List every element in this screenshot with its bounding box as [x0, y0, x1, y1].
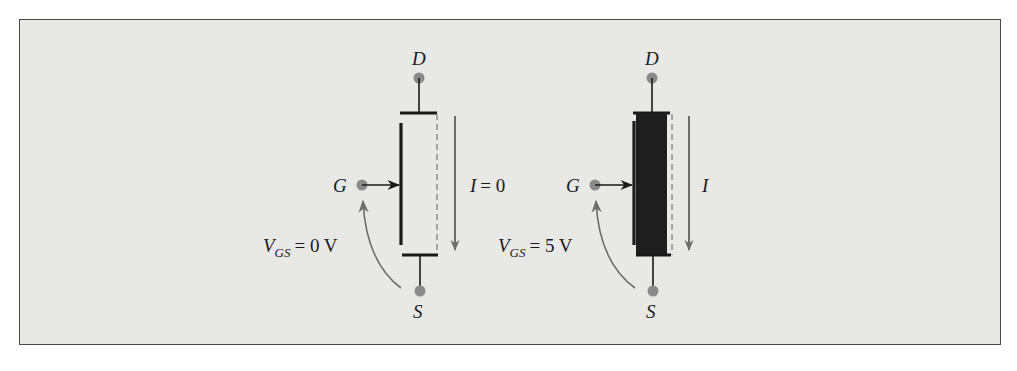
left-vgs-label: VGS= 0 V	[263, 235, 338, 260]
right-gate-label: G	[566, 175, 580, 196]
mosfet-diagram: D S G I= 0 VGS= 0 V D S G	[0, 0, 1017, 371]
right-vgs-curved-arrow	[596, 201, 635, 288]
right-transistor-on: D S G I VGS= 5 V	[498, 48, 710, 322]
left-current-label: I= 0	[469, 175, 505, 196]
right-conducting-channel	[636, 113, 667, 255]
left-gate-label: G	[333, 175, 347, 196]
right-current-label: I	[701, 175, 710, 196]
left-source-terminal-dot	[415, 286, 426, 297]
left-transistor-off: D S G I= 0 VGS= 0 V	[263, 48, 505, 322]
left-vgs-curved-arrow	[363, 201, 401, 288]
left-drain-label: D	[411, 48, 426, 69]
right-source-label: S	[646, 301, 656, 322]
right-drain-label: D	[644, 48, 659, 69]
left-source-label: S	[413, 301, 423, 322]
right-source-terminal-dot	[648, 286, 659, 297]
right-vgs-label: VGS= 5 V	[498, 235, 573, 260]
